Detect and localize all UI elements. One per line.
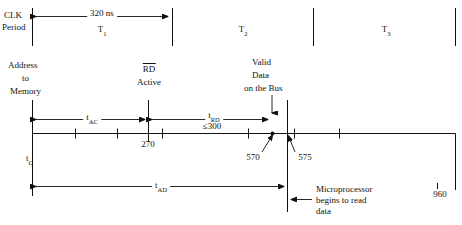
state-label-t3: T3 <box>382 24 391 38</box>
valid-data-line2: Data <box>252 70 269 81</box>
state-t1-index: 1 <box>103 30 106 37</box>
data-valid-point <box>271 132 275 136</box>
micro-read-line2: begins to read <box>316 195 366 206</box>
signal-address-line2: to <box>22 73 29 84</box>
t-o-sub: O <box>29 159 34 166</box>
valid-data-line1: Valid <box>252 57 271 68</box>
clk-period-label-line1: CLK <box>4 10 22 21</box>
axis-tick-label-575: 575 <box>298 152 312 163</box>
signal-address-line1: Address <box>8 60 38 71</box>
axis-tick-label-570: 570 <box>246 152 260 163</box>
valid-data-line3: on the Bus <box>244 83 283 94</box>
state-t3-index: 3 <box>387 30 390 37</box>
state-t2-index: 2 <box>244 30 247 37</box>
rd-overline-text: RD <box>143 63 156 74</box>
signal-rd-label: RD <box>143 63 156 75</box>
interval-t-ac-label: tAC <box>83 112 101 126</box>
axis-tick-label-960: 960 <box>433 189 447 200</box>
t-ad-sub: AD <box>158 186 167 193</box>
t-ac-sub: AC <box>89 118 98 125</box>
clk-span-label: 320 ns <box>87 8 117 19</box>
interval-t-ad-label: tAD <box>152 180 170 194</box>
state-t3-name: T <box>382 24 388 34</box>
state-label-t1: T1 <box>98 24 107 38</box>
state-t1-name: T <box>98 24 104 34</box>
state-label-t2: T2 <box>239 24 248 38</box>
diagram-vector-layer <box>0 0 462 225</box>
axis-tick-label-270: 270 <box>141 139 155 150</box>
state-t2-name: T <box>239 24 245 34</box>
signal-rd-active-label: Active <box>137 77 161 88</box>
interval-t-o-label: tO <box>26 153 33 167</box>
micro-read-line1: Microprocessor <box>316 184 372 195</box>
timing-diagram: CLK Period 320 ns T1 T2 T3 Address to Me… <box>0 0 462 225</box>
time-axis <box>33 129 456 191</box>
value-callouts <box>262 135 295 152</box>
signal-address-line3: Memory <box>10 86 41 97</box>
interval-t-rd-constraint: ≤300 <box>203 121 221 132</box>
micro-read-line3: data <box>316 206 331 217</box>
clk-period-label-line2: Period <box>2 22 26 33</box>
